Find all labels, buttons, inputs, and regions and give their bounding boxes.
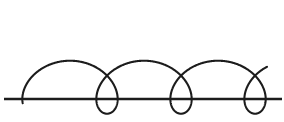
prolate-cycloid-curve <box>22 61 267 114</box>
curve-svg <box>0 0 284 122</box>
figure-canvas <box>0 0 284 122</box>
